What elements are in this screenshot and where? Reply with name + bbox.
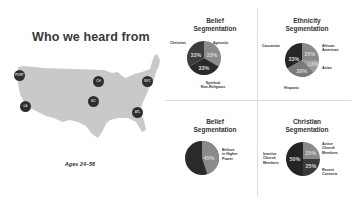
svg-text:50%: 50% xyxy=(290,156,301,162)
svg-text:45%: 45% xyxy=(204,155,215,161)
map-marker-nyc[interactable]: NYC xyxy=(142,76,153,87)
map-marker-la[interactable]: LA xyxy=(20,101,31,112)
panel-title-line: Christian xyxy=(272,118,342,126)
svg-text:25%: 25% xyxy=(306,163,317,169)
label-believe-higher-power: Believe in Higher Power xyxy=(222,148,238,161)
panel-title-christian: Christian Segmentation xyxy=(272,118,342,134)
pie-chart-ethnicity: 33% 25% 13% 29% xyxy=(284,42,320,78)
label-recent-converts: Recent Converts xyxy=(322,168,338,177)
label-caucasian: Caucasian xyxy=(262,44,280,48)
panel-title-ethnicity: Ethnicity Segmentation xyxy=(272,17,342,33)
vertical-divider xyxy=(257,8,258,196)
map-marker-portland[interactable]: PORT xyxy=(14,70,25,81)
label-hispanic: Hispanic xyxy=(284,86,299,90)
pie-chart-christian: 50% 25% 25% xyxy=(285,141,321,177)
map-marker-chicago[interactable]: CH xyxy=(93,76,104,87)
panel-title-line: Segmentation xyxy=(180,126,250,134)
panel-title-belief-2: Belief Segmentation xyxy=(180,118,250,134)
label-african-american: African American xyxy=(322,44,338,53)
page-title: Who we heard from xyxy=(32,30,150,44)
map-marker-atl[interactable]: ATL xyxy=(132,107,143,118)
ages-label: Ages 24–56 xyxy=(0,161,160,167)
panel-title-line: Segmentation xyxy=(272,25,342,33)
label-line: Members xyxy=(322,151,338,155)
svg-text:25%: 25% xyxy=(306,150,317,156)
label-line: American xyxy=(322,48,338,52)
us-map xyxy=(14,52,162,142)
label-asian: Asian xyxy=(322,66,332,70)
panel-title-line: Belief xyxy=(180,17,250,25)
svg-text:33%: 33% xyxy=(207,52,218,58)
label-line: Members xyxy=(263,161,279,165)
label-christian: Christian xyxy=(170,41,186,45)
label-line: Non-Religious xyxy=(188,85,238,89)
svg-text:29%: 29% xyxy=(297,68,308,74)
panel-title-line: Segmentation xyxy=(180,25,250,33)
svg-text:33%: 33% xyxy=(289,56,300,62)
pie-chart-higher-power: 45% xyxy=(184,140,220,176)
horizontal-divider xyxy=(165,100,351,101)
svg-text:25%: 25% xyxy=(305,51,316,57)
panel-title-line: Segmentation xyxy=(272,126,342,134)
panel-title-line: Ethnicity xyxy=(272,17,342,25)
svg-text:13%: 13% xyxy=(308,61,319,67)
label-inactive-church-members: Inactive Church Members xyxy=(263,152,279,165)
pie-chart-belief: 33% 33% 33% xyxy=(186,35,222,81)
svg-text:33%: 33% xyxy=(191,52,202,58)
panel-title-belief-1: Belief Segmentation xyxy=(180,17,250,33)
map-marker-kc[interactable]: KC xyxy=(88,96,99,107)
svg-text:33%: 33% xyxy=(199,65,210,71)
label-line: Converts xyxy=(322,172,338,176)
label-line: Power xyxy=(222,157,238,161)
panel-title-line: Belief xyxy=(180,118,250,126)
label-spiritual-nonreligious: Spiritual Non-Religious xyxy=(188,81,238,90)
label-active-church-members: Active Church Members xyxy=(322,142,338,155)
